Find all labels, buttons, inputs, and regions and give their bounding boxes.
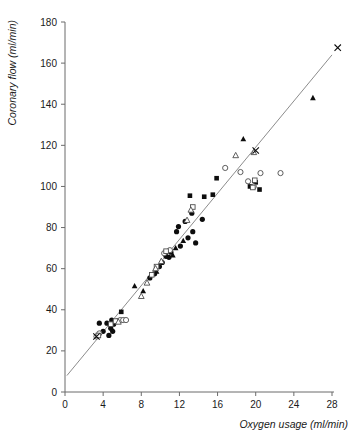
marker-filled-triangle (132, 283, 138, 288)
y-tick-label: 80 (46, 222, 58, 233)
marker-open-square (164, 249, 169, 254)
marker-open-triangle (138, 293, 144, 298)
axes (61, 22, 334, 396)
scatter-chart: 0481216202428020406080100120140160180 Ox… (0, 0, 354, 443)
marker-open-triangle (233, 152, 239, 157)
y-tick-label: 20 (46, 345, 58, 356)
marker-filled-circle (174, 229, 179, 234)
x-axis-title: Oxygen usage (ml/min) (239, 418, 348, 430)
y-tick-label: 60 (46, 263, 58, 274)
marker-filled-circle (193, 240, 198, 245)
marker-filled-triangle (173, 245, 179, 250)
marker-filled-circle (176, 224, 181, 229)
x-tick-label: 24 (288, 399, 300, 410)
series-filled-square (119, 176, 262, 314)
fit-line-segment (67, 55, 332, 376)
marker-open-square (108, 322, 113, 327)
y-tick-label: 180 (40, 17, 57, 28)
marker-filled-circle (178, 243, 183, 248)
marker-open-square (149, 273, 154, 278)
x-tick-label: 16 (212, 399, 224, 410)
marker-filled-square (202, 194, 207, 199)
y-tick-label: 140 (40, 99, 57, 110)
marker-filled-triangle (240, 136, 246, 141)
marker-x (335, 44, 341, 50)
axis-tick-labels: 0481216202428020406080100120140160180 (40, 17, 338, 411)
y-tick-label: 100 (40, 181, 57, 192)
marker-filled-circle (185, 235, 190, 240)
marker-open-circle (245, 179, 250, 184)
marker-filled-square (257, 187, 262, 192)
marker-filled-triangle (310, 95, 316, 100)
marker-filled-circle (190, 229, 195, 234)
marker-filled-triangle (180, 238, 186, 243)
marker-open-square (252, 178, 257, 183)
marker-filled-circle (97, 321, 102, 326)
marker-filled-square (214, 176, 219, 181)
marker-filled-circle (200, 217, 205, 222)
y-tick-label: 0 (51, 387, 57, 398)
regression-line (67, 55, 332, 376)
marker-filled-circle (106, 333, 111, 338)
y-axis-title: Coronary flow (ml/min) (6, 20, 18, 126)
plot-canvas: 0481216202428020406080100120140160180 Ox… (0, 0, 354, 443)
marker-filled-square (119, 310, 124, 315)
marker-open-circle (278, 170, 283, 175)
y-tick-label: 40 (46, 304, 58, 315)
x-tick-label: 12 (174, 399, 186, 410)
x-tick-label: 4 (100, 399, 106, 410)
marker-filled-circle (110, 329, 115, 334)
marker-open-square (251, 185, 256, 190)
marker-open-circle (238, 169, 243, 174)
marker-filled-square (188, 193, 193, 198)
x-tick-label: 0 (62, 399, 68, 410)
y-tick-label: 160 (40, 58, 57, 69)
x-tick-label: 8 (139, 399, 145, 410)
x-tick-label: 20 (250, 399, 262, 410)
marker-open-circle (223, 165, 228, 170)
marker-open-circle (258, 170, 263, 175)
marker-open-circle (123, 317, 128, 322)
x-tick-label: 28 (326, 399, 338, 410)
y-tick-label: 120 (40, 140, 57, 151)
marker-filled-square (211, 192, 216, 197)
